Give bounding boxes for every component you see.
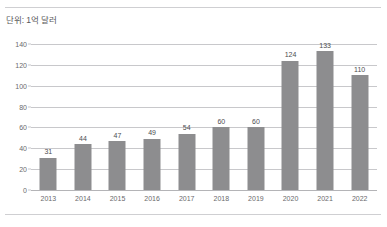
x-axis-tick-label: 2018: [214, 194, 230, 203]
x-axis: 2013201420152016201720182019202020212022: [31, 194, 377, 206]
x-axis-tick-label: 2016: [144, 194, 160, 203]
bar[interactable]: [213, 127, 230, 190]
x-axis-tick-label: 2020: [283, 194, 299, 203]
bar-slot: 44: [66, 44, 101, 190]
bar-slot: 31: [31, 44, 66, 190]
bar-slot: 60: [239, 44, 274, 190]
unit-caption: 단위: 1억 달러: [6, 15, 57, 26]
bar-value-label: 47: [114, 132, 122, 140]
bar[interactable]: [109, 141, 126, 190]
bar-value-label: 133: [319, 42, 331, 50]
y-axis-tick-label: 80: [19, 103, 27, 110]
bar[interactable]: [144, 139, 161, 190]
bar-slot: 49: [135, 44, 170, 190]
plot-area: 020406080100120140 314447495460601241331…: [31, 44, 377, 190]
x-axis-tick-label: 2015: [110, 194, 126, 203]
bar[interactable]: [178, 134, 195, 190]
bar[interactable]: [40, 158, 57, 190]
bar-slot: 124: [273, 44, 308, 190]
bar-value-label: 124: [285, 51, 297, 59]
bar-slot: 60: [204, 44, 239, 190]
bar-value-label: 49: [148, 129, 156, 137]
x-axis-tick-label: 2017: [179, 194, 195, 203]
bar-value-label: 31: [44, 148, 52, 156]
y-axis-tick-label: 120: [15, 61, 27, 68]
bar[interactable]: [247, 127, 264, 190]
y-axis-tick-label: 100: [15, 82, 27, 89]
bar-slot: 47: [100, 44, 135, 190]
bar-value-label: 110: [354, 66, 365, 74]
bar-slot: 110: [342, 44, 377, 190]
gridline: [31, 190, 377, 191]
bar-value-label: 60: [252, 118, 260, 126]
bottom-divider-rule: [5, 214, 381, 215]
y-axis-tick-label: 0: [23, 187, 27, 194]
y-axis-tick-label: 140: [15, 41, 27, 48]
bar-slot: 54: [169, 44, 204, 190]
bar[interactable]: [351, 75, 368, 190]
bar[interactable]: [282, 61, 299, 190]
chart-figure: 단위: 1억 달러 020406080100120140 31444749546…: [0, 0, 387, 227]
x-axis-tick-label: 2014: [75, 194, 91, 203]
bar-value-label: 60: [217, 118, 225, 126]
x-axis-tick-label: 2013: [41, 194, 57, 203]
x-axis-tick-label: 2022: [352, 194, 368, 203]
x-axis-tick-label: 2019: [248, 194, 264, 203]
bar-value-label: 54: [183, 124, 191, 132]
y-axis-tick-label: 60: [19, 124, 27, 131]
bar-value-label: 44: [79, 135, 87, 143]
bar-slot: 133: [308, 44, 343, 190]
bar[interactable]: [317, 51, 334, 190]
bars-group: 31444749546060124133110: [31, 44, 377, 190]
top-divider-rule: [5, 7, 381, 8]
y-axis-tick-label: 40: [19, 145, 27, 152]
y-axis-tick-label: 20: [19, 166, 27, 173]
bar[interactable]: [74, 144, 91, 190]
x-axis-tick-label: 2021: [317, 194, 333, 203]
